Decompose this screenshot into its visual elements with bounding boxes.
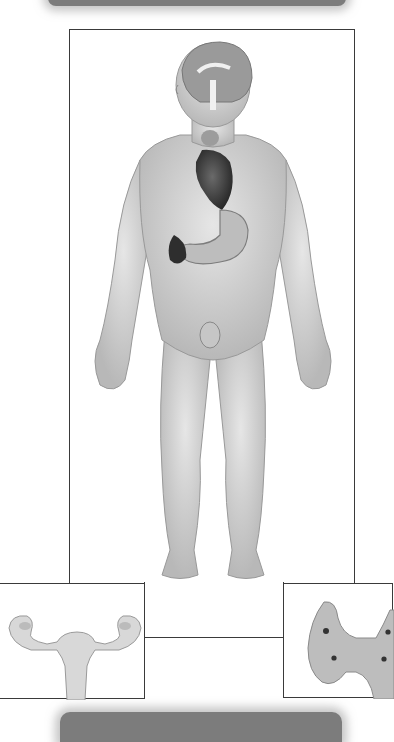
connector-box bbox=[144, 582, 284, 638]
brain-icon bbox=[182, 42, 252, 102]
right-inset-thyroid: Thyroid gland (with parathyroid glands) bbox=[283, 583, 393, 698]
uterus-ovaries-icon bbox=[0, 584, 146, 700]
human-body-illustration bbox=[70, 30, 356, 585]
thyroid-gland-icon bbox=[284, 584, 394, 699]
bottom-footer-bar bbox=[60, 712, 342, 742]
left-inset-uterus-ovaries: Female reproductive organs (uterus and o… bbox=[0, 583, 145, 699]
top-header-bar bbox=[48, 0, 346, 6]
main-figure-frame: Male human body, front view, with intern… bbox=[69, 29, 355, 584]
